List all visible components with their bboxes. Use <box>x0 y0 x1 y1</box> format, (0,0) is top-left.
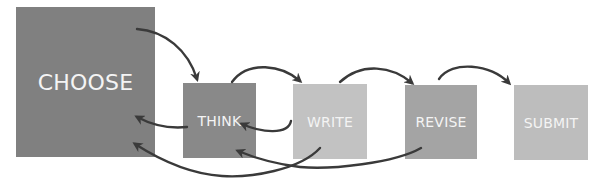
node-revise: REVISE <box>405 85 477 159</box>
node-choose-label: CHOOSE <box>38 70 134 95</box>
node-think: THINK <box>183 83 256 158</box>
arrow-revise-to-submit <box>439 67 509 83</box>
arrow-write-to-revise <box>340 69 412 83</box>
node-submit: SUBMIT <box>514 85 588 160</box>
node-think-label: THINK <box>198 113 242 129</box>
node-submit-label: SUBMIT <box>524 115 579 131</box>
node-choose: CHOOSE <box>16 7 155 157</box>
node-write: WRITE <box>293 84 367 159</box>
node-revise-label: REVISE <box>415 114 466 130</box>
node-write-label: WRITE <box>307 114 353 130</box>
arrow-think-to-write <box>232 67 300 82</box>
